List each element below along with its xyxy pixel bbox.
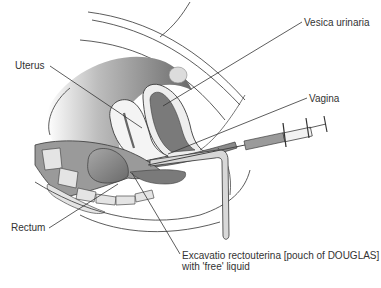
label-pouch-of-douglas: Excavatio rectouterina [pouch of DOUGLAS… (182, 250, 379, 272)
label-rectum: Rectum (11, 222, 45, 233)
label-vesica-urinaria: Vesica urinaria (304, 17, 370, 28)
speculum (150, 150, 229, 239)
label-vagina: Vagina (309, 93, 339, 104)
label-pouch-of-douglas-line2: with 'free' liquid (182, 261, 379, 272)
label-uterus: Uterus (15, 60, 44, 71)
label-pouch-of-douglas-line1: Excavatio rectouterina [pouch of DOUGLAS… (182, 250, 379, 261)
pelvis-diagram (0, 0, 381, 288)
